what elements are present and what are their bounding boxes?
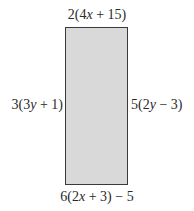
rectangle-shape: [65, 27, 128, 185]
label-text: 6(2x + 3) − 5: [60, 189, 133, 204]
label-text: 3(3y + 1): [12, 97, 63, 112]
left-side-label: 3(3y + 1): [12, 98, 63, 112]
top-side-label: 2(4x + 15): [0, 8, 194, 22]
label-text: 5(2y − 3): [131, 97, 182, 112]
right-side-label: 5(2y − 3): [131, 98, 182, 112]
label-text: 2(4x + 15): [68, 7, 126, 22]
bottom-side-label: 6(2x + 3) − 5: [0, 190, 194, 204]
